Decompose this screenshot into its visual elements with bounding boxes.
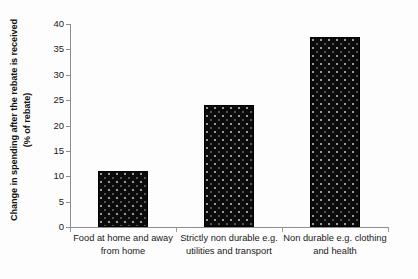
y-axis-tick-mark: [66, 202, 70, 203]
y-axis-tick-mark: [66, 126, 70, 127]
y-axis-tick-label: 15: [53, 146, 64, 156]
y-axis-title-text: Change in spending after the rebate is r…: [8, 15, 34, 225]
plot-area: 0510152025303540: [70, 24, 388, 227]
y-axis-tick-label: 0: [59, 222, 64, 232]
y-axis-tick-label: 20: [53, 121, 64, 131]
x-axis-line: [70, 227, 388, 228]
y-axis-tick-mark: [66, 151, 70, 152]
y-axis-tick-label: 35: [53, 44, 64, 54]
y-axis-title: Change in spending after the rebate is r…: [0, 0, 42, 240]
y-axis-tick-label: 40: [53, 19, 64, 29]
x-axis-tick-mark: [388, 227, 389, 232]
x-axis-category-labels: Food at home and away from homeStrictly …: [70, 232, 388, 272]
y-axis-tick-mark: [66, 24, 70, 25]
x-axis-category-label: Non durable e.g. clothing and health: [282, 232, 388, 257]
y-axis-tick-label: 30: [53, 70, 64, 80]
y-axis-tick-mark: [66, 100, 70, 101]
y-axis-tick-mark: [66, 176, 70, 177]
bar: [204, 105, 254, 227]
x-axis-category-label: Food at home and away from home: [70, 232, 176, 257]
bar: [310, 37, 360, 227]
y-axis-tick-mark: [66, 75, 70, 76]
y-axis-line: [70, 24, 71, 227]
y-axis-tick-label: 5: [59, 197, 64, 207]
y-axis-tick-mark: [66, 49, 70, 50]
x-axis-category-label: Strictly non durable e.g. utilities and …: [176, 232, 282, 257]
y-axis-tick-label: 10: [53, 171, 64, 181]
bar: [98, 171, 148, 227]
bar-chart-figure: Change in spending after the rebate is r…: [0, 0, 418, 279]
y-axis-tick-label: 25: [53, 95, 64, 105]
